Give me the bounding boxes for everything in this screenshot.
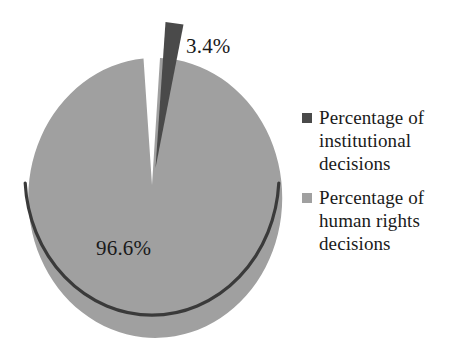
legend-label-institutional: Percentage of institutional decisions [319,106,458,176]
slice-value-label-institutional: 3.4% [186,36,231,57]
slice-value-label-human-rights: 96.6% [96,238,151,259]
legend-swatch-institutional [302,113,312,123]
legend-item-institutional[interactable]: Percentage of institutional decisions [302,106,458,176]
legend-item-human-rights[interactable]: Percentage of human rights decisions [302,186,458,256]
pie-chart-figure: 3.4% 96.6% Percentage of institutional d… [0,0,460,358]
pie-svg [0,0,300,358]
legend-swatch-human-rights [302,193,312,203]
legend-label-human-rights: Percentage of human rights decisions [319,186,458,256]
pie-slice-human-rights[interactable] [28,58,282,338]
chart-legend: Percentage of institutional decisions Pe… [302,106,458,265]
pie-plot-area: 3.4% 96.6% [0,0,300,358]
